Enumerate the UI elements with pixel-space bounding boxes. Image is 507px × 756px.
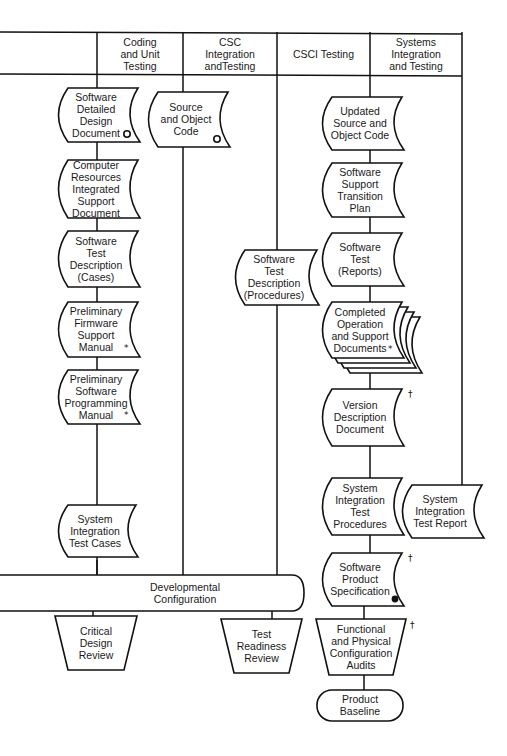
document-label: Integration xyxy=(335,494,385,506)
document-label: Completed xyxy=(335,306,386,318)
document-soc: Sourceand ObjectCode xyxy=(149,92,231,147)
document-sps: SoftwareProductSpecification† xyxy=(323,553,414,606)
baseline-label: Product xyxy=(342,693,378,705)
dagger-icon: † xyxy=(408,389,413,399)
document-usoc: UpdatedSource andObject Code xyxy=(323,97,405,150)
document-sitc: SystemIntegrationTest Cases xyxy=(59,505,139,557)
review-label: Configuration xyxy=(330,647,393,659)
document-label: Manual xyxy=(79,409,113,421)
header-csc: Integration xyxy=(205,48,255,60)
review-fca-pca: Functionaland PhysicalConfigurationAudit… xyxy=(316,619,415,675)
review-cdr: CriticalDesignReview xyxy=(55,616,137,670)
document-label: Integration xyxy=(70,525,120,537)
asterisk-icon: * xyxy=(124,343,129,353)
document-label: (Procedures) xyxy=(244,289,305,301)
document-label: Software xyxy=(75,235,117,247)
review-label: Critical xyxy=(80,625,112,637)
review-label: Review xyxy=(79,649,114,661)
document-label: Document xyxy=(72,207,120,219)
baseline-label: Developmental xyxy=(150,581,220,593)
review-label: Audits xyxy=(346,659,375,671)
document-std-cases: SoftwareTestDescription(Cases) xyxy=(59,231,141,287)
document-label: (Reports) xyxy=(338,265,382,277)
document-label: Preliminary xyxy=(70,373,123,385)
header-coding: and Unit xyxy=(120,48,159,60)
document-label: Description xyxy=(70,259,123,271)
header-csc: CSC xyxy=(219,36,242,48)
document-label: Software xyxy=(339,241,381,253)
document-label: Test xyxy=(350,506,369,518)
document-label: Preliminary xyxy=(70,305,123,317)
lifecycle-diagram: Codingand UnitTestingCSCIntegrationandTe… xyxy=(0,0,507,756)
document-label: Software xyxy=(339,561,381,573)
review-label: and Physical xyxy=(331,635,391,647)
document-label: Test Report xyxy=(413,517,467,529)
document-str: SoftwareTest(Reports) xyxy=(323,233,405,286)
document-label: Integrated xyxy=(72,183,119,195)
document-label: Document xyxy=(336,423,384,435)
document-std-proc: SoftwareTestDescription(Procedures) xyxy=(236,250,320,305)
document-pfsm: PreliminaryFirmwareSupportManual* xyxy=(59,302,141,357)
document-crisd: ComputerResourcesIntegratedSupportDocume… xyxy=(59,159,141,219)
header-coding: Coding xyxy=(123,36,156,48)
document-label: Document xyxy=(72,127,120,139)
document-label: and Object xyxy=(161,113,212,125)
document-label: Code xyxy=(173,125,198,137)
document-sddd: SoftwareDetailedDesignDocument xyxy=(59,88,141,142)
document-vdd: VersionDescriptionDocument† xyxy=(323,389,414,446)
document-label: Documents xyxy=(333,342,386,354)
document-label: Resources xyxy=(71,171,121,183)
document-pspm: PreliminarySoftwareProgrammingManual* xyxy=(59,370,141,424)
document-label: Software xyxy=(253,253,295,265)
header-coding: Testing xyxy=(123,60,156,72)
document-label: Version xyxy=(342,399,377,411)
open-circle-icon xyxy=(214,136,220,142)
header-csc: andTesting xyxy=(205,60,256,72)
review-label: Design xyxy=(80,637,113,649)
review-label: Functional xyxy=(337,623,385,635)
header-top-border xyxy=(0,32,462,34)
document-label: Firmware xyxy=(74,317,118,329)
document-label: Software xyxy=(75,91,117,103)
document-label: Computer xyxy=(73,159,120,171)
document-label: Source and xyxy=(333,117,387,129)
document-label: Source xyxy=(169,101,202,113)
document-label: System xyxy=(342,482,377,494)
document-sstp: SoftwareSupportTransitionPlan xyxy=(323,163,405,217)
document-label: Detailed xyxy=(77,103,116,115)
document-label: (Cases) xyxy=(78,271,115,283)
document-sitr: SystemIntegrationTest Report xyxy=(403,485,485,538)
document-label: Product xyxy=(342,573,378,585)
document-label: Operation xyxy=(337,318,383,330)
filled-circle-icon xyxy=(392,596,399,603)
document-label: Support xyxy=(78,329,115,341)
review-trr: TestReadinessReview xyxy=(221,619,302,673)
asterisk-icon: * xyxy=(388,344,393,354)
baseline-dev-config: DevelopmentalConfiguration xyxy=(0,575,304,611)
document-label: Software xyxy=(339,166,381,178)
document-label: System xyxy=(422,493,457,505)
document-label: Description xyxy=(248,277,301,289)
document-label: System xyxy=(77,513,112,525)
dagger-icon: † xyxy=(410,620,415,630)
document-sitp: SystemIntegrationTestProcedures xyxy=(323,478,405,535)
review-label: Review xyxy=(244,652,279,664)
header-bottom-border xyxy=(0,74,462,76)
document-label: Plan xyxy=(349,202,370,214)
document-label: Support xyxy=(342,178,379,190)
document-label: Test Cases xyxy=(69,537,121,549)
document-label: Description xyxy=(334,411,387,423)
baseline-label: Baseline xyxy=(340,705,380,717)
document-label: and Support xyxy=(331,330,388,342)
baseline-label: Configuration xyxy=(154,593,217,605)
baseline-product: ProductBaseline xyxy=(317,690,403,721)
document-label: Software xyxy=(75,385,117,397)
open-circle-icon xyxy=(124,131,130,137)
review-label: Readiness xyxy=(237,640,287,652)
review-label: Test xyxy=(252,628,271,640)
header-systems: Systems xyxy=(396,36,436,48)
document-label: Specification xyxy=(330,585,390,597)
document-label: Updated xyxy=(340,105,380,117)
document-label: Object Code xyxy=(331,129,390,141)
header-systems: and Testing xyxy=(389,60,443,72)
